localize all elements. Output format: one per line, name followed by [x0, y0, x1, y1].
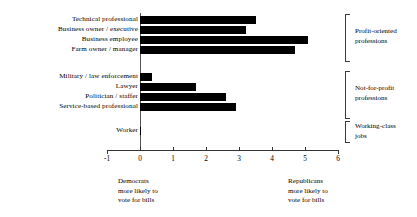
annotation-republicans-line3: vote for bills	[288, 196, 328, 206]
annotation-democrats: Democrats more likely to vote for bills	[118, 177, 158, 206]
group-label-profit-oriented-line2: professions	[355, 37, 397, 47]
bar-chart: Technical professional Business owner / …	[0, 0, 417, 217]
x-tick-label-1: 1	[171, 155, 175, 163]
bar-military-law-enforcement	[140, 73, 152, 81]
group-label-not-for-profit: Not-for-profit professions	[355, 84, 394, 103]
group-bracket-profit-oriented	[345, 14, 350, 62]
annotation-democrats-line1: Democrats	[118, 177, 158, 187]
bar-worker	[140, 127, 141, 135]
annotation-democrats-line2: more likely to	[118, 187, 158, 197]
x-tick-5	[305, 147, 306, 151]
annotation-republicans-line2: more likely to	[288, 187, 328, 197]
x-axis-line	[107, 150, 338, 151]
bar-business-owner-executive	[140, 26, 246, 34]
x-tick-label-0: 0	[138, 155, 142, 163]
x-tick-4	[272, 147, 273, 151]
bar-service-based-professional	[140, 103, 236, 111]
x-tick-label-2: 2	[204, 155, 208, 163]
x-tick-label-neg1: -1	[104, 155, 110, 163]
plot-area	[107, 13, 338, 150]
x-tick-0	[140, 147, 141, 151]
bar-lawyer	[140, 83, 196, 91]
annotation-republicans: Republicans more likely to vote for bill…	[288, 177, 328, 206]
x-axis: -10123456	[107, 150, 338, 151]
group-label-working-class-line1: Working-class	[355, 122, 396, 132]
group-label-profit-oriented: Profit-oriented professions	[355, 27, 397, 46]
bar-technical-professional	[140, 16, 256, 24]
group-label-working-class-line2: jobs	[355, 132, 396, 142]
x-tick-label-4: 4	[270, 155, 274, 163]
x-tick-label-3: 3	[237, 155, 241, 163]
group-label-working-class: Working-class jobs	[355, 122, 396, 141]
group-label-profit-oriented-line1: Profit-oriented	[355, 27, 397, 37]
bar-politician-staffer	[140, 93, 226, 101]
group-label-not-for-profit-line2: professions	[355, 94, 394, 104]
bar-farm-owner-manager	[140, 46, 295, 54]
bar-business-employee	[140, 36, 308, 44]
x-tick-2	[206, 147, 207, 151]
group-label-not-for-profit-line1: Not-for-profit	[355, 84, 394, 94]
x-tick-3	[239, 147, 240, 151]
x-tick-label-5: 5	[303, 155, 307, 163]
annotation-democrats-line3: vote for bills	[118, 196, 158, 206]
x-tick-1	[173, 147, 174, 151]
annotation-republicans-line1: Republicans	[288, 177, 328, 187]
group-bracket-working-class	[345, 121, 350, 143]
group-bracket-not-for-profit	[345, 71, 350, 119]
x-tick-label-6: 6	[336, 155, 340, 163]
